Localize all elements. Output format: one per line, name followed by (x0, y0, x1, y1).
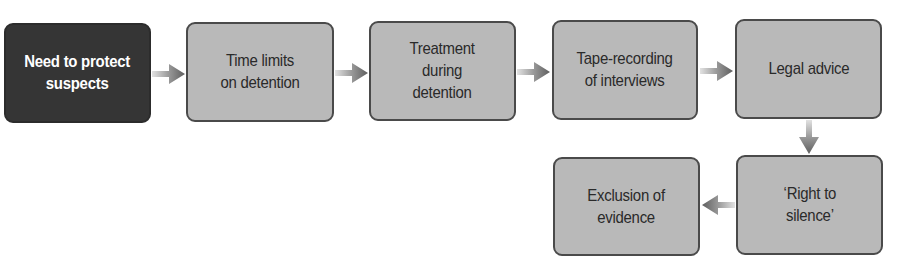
arrow-right-icon (335, 61, 369, 85)
node-tape-recording-of-interviews: Tape-recording of interviews (552, 20, 698, 120)
node-legal-advice: Legal advice (735, 19, 882, 119)
node-label: Need to protect suspects (25, 51, 131, 95)
node-time-limits-on-detention: Time limits on detention (186, 22, 334, 122)
node-label: Exclusion of evidence (588, 185, 665, 229)
node-right-to-silence: ‘Right to silence’ (736, 155, 883, 255)
arrow-right-icon (700, 59, 734, 83)
node-label: Legal advice (768, 58, 849, 80)
node-label: ‘Right to silence’ (783, 183, 836, 227)
node-label: Time limits on detention (220, 50, 299, 94)
arrow-right-icon (517, 60, 551, 84)
node-treatment-during-detention: Treatment during detention (369, 21, 516, 121)
arrow-right-icon (152, 62, 186, 86)
node-need-to-protect-suspects: Need to protect suspects (4, 23, 151, 123)
node-exclusion-of-evidence: Exclusion of evidence (553, 157, 700, 256)
node-label: Tape-recording of interviews (577, 48, 673, 92)
arrow-down-icon (797, 120, 821, 155)
node-label: Treatment during detention (410, 38, 475, 104)
arrow-left-icon (701, 193, 735, 217)
